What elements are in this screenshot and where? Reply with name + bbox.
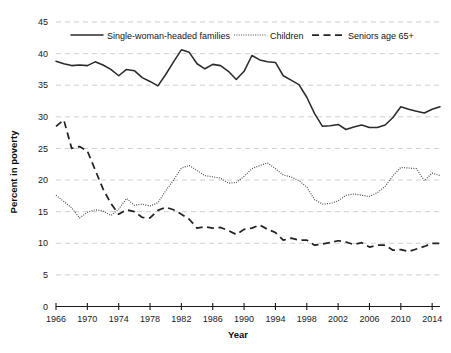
legend-label-single-woman-headed-families: Single-woman-headed families (107, 31, 231, 41)
y-axis-title: Percent in poverty (8, 130, 19, 214)
poverty-rate-line-chart: 051015202530354045 196619701974197819821… (0, 0, 451, 353)
x-axis-tick-label: 2010 (391, 314, 411, 324)
y-axis-tick-label: 10 (38, 238, 48, 248)
x-axis-tick-label: 1982 (171, 314, 191, 324)
x-axis-tick-label: 1994 (265, 314, 285, 324)
y-axis-tick-label: 45 (38, 17, 48, 27)
chart-background (0, 0, 451, 353)
x-axis-tick-label: 2006 (359, 314, 379, 324)
x-axis-tick-label: 1998 (297, 314, 317, 324)
x-axis-tick-label: 2002 (328, 314, 348, 324)
x-axis-tick-label: 1970 (77, 314, 97, 324)
y-axis-tick-label: 15 (38, 207, 48, 217)
legend-label-seniors-age-65-plus: Seniors age 65+ (348, 31, 414, 41)
y-axis-tick-label: 35 (38, 80, 48, 90)
y-axis-tick-label: 5 (43, 270, 48, 280)
x-axis-tick-label: 2014 (422, 314, 442, 324)
y-axis-tick-label: 25 (38, 144, 48, 154)
y-axis-tick-label: 0 (43, 302, 48, 312)
x-axis-tick-label: 1966 (46, 314, 66, 324)
x-axis-tick-label: 1978 (140, 314, 160, 324)
x-axis-tick-label: 1974 (109, 314, 129, 324)
y-axis-tick-label: 30 (38, 112, 48, 122)
x-axis-tick-label: 1990 (234, 314, 254, 324)
y-axis-tick-label: 20 (38, 175, 48, 185)
legend-label-children: Children (270, 31, 304, 41)
x-axis-tick-label: 1986 (203, 314, 223, 324)
x-axis-title: Year (228, 329, 248, 340)
y-axis-tick-label: 40 (38, 49, 48, 59)
chart-canvas: 051015202530354045 196619701974197819821… (0, 0, 451, 353)
